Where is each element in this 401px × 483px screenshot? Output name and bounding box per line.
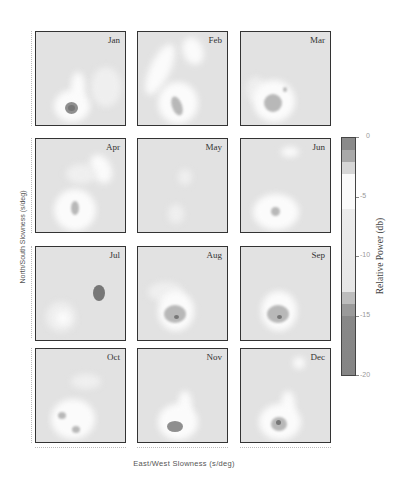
y-axis-ticks — [31, 348, 35, 443]
panel-label: Mar — [310, 35, 325, 45]
panel-sep: Sep — [240, 246, 331, 341]
panel-mar: Mar — [240, 31, 331, 126]
panel-feb: Feb — [137, 31, 228, 126]
y-axis-ticks — [31, 246, 35, 338]
panel-oct: Oct — [35, 348, 126, 443]
y-axis-ticks — [31, 31, 35, 126]
panel-label: May — [206, 142, 223, 152]
colorbar-tick-label: -20 — [360, 371, 370, 378]
colorbar-tick-label: -5 — [360, 192, 366, 199]
colorbar-tick-label: -15 — [360, 311, 370, 318]
colorbar-tick — [356, 316, 359, 317]
colorbar-tick — [356, 137, 359, 138]
colorbar-tick — [356, 375, 359, 376]
panel-apr: Apr — [35, 138, 126, 233]
panel-jul: Jul — [35, 246, 126, 341]
panel-label: Sep — [312, 250, 326, 260]
y-axis-ticks — [31, 138, 35, 233]
panel-may: May — [137, 138, 228, 233]
panel-label: Jul — [109, 250, 120, 260]
colorbar — [341, 137, 356, 376]
colorbar-label: Relative Power (db) — [375, 218, 385, 295]
panel-label: Dec — [311, 352, 326, 362]
colorbar-tick-label: -10 — [360, 251, 370, 258]
y-axis-label: North/South Slowness (s/deg) — [19, 191, 26, 284]
panel-label: Apr — [106, 142, 120, 152]
panel-label: Oct — [107, 352, 120, 362]
x-axis-ticks — [35, 447, 126, 451]
x-axis-ticks — [240, 447, 331, 451]
x-axis-ticks — [137, 447, 228, 451]
panel-jun: Jun — [240, 138, 331, 233]
panel-nov: Nov — [137, 348, 228, 443]
panel-dec: Dec — [240, 348, 331, 443]
panel-label: Jan — [108, 35, 120, 45]
panel-jan: Jan — [35, 31, 126, 126]
panel-label: Feb — [209, 35, 223, 45]
panel-label: Jun — [312, 142, 325, 152]
colorbar-tick-label: 0 — [366, 132, 370, 139]
colorbar-tick — [356, 256, 359, 257]
colorbar-tick — [356, 197, 359, 198]
panel-label: Aug — [207, 250, 223, 260]
x-axis-label: East/West Slowness (s/deg) — [133, 459, 234, 468]
panel-label: Nov — [207, 352, 223, 362]
panel-aug: Aug — [137, 246, 228, 341]
